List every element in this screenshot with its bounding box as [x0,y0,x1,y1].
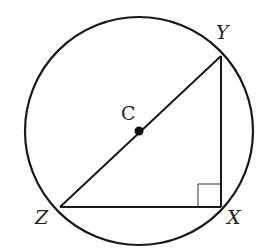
label-y: Y [216,23,229,42]
center-point-c [135,127,144,136]
label-c: C [121,104,136,123]
label-x: X [227,208,241,227]
diagram: Y C Z X [0,0,269,251]
label-z: Z [35,208,48,227]
right-angle-marker [198,184,221,207]
